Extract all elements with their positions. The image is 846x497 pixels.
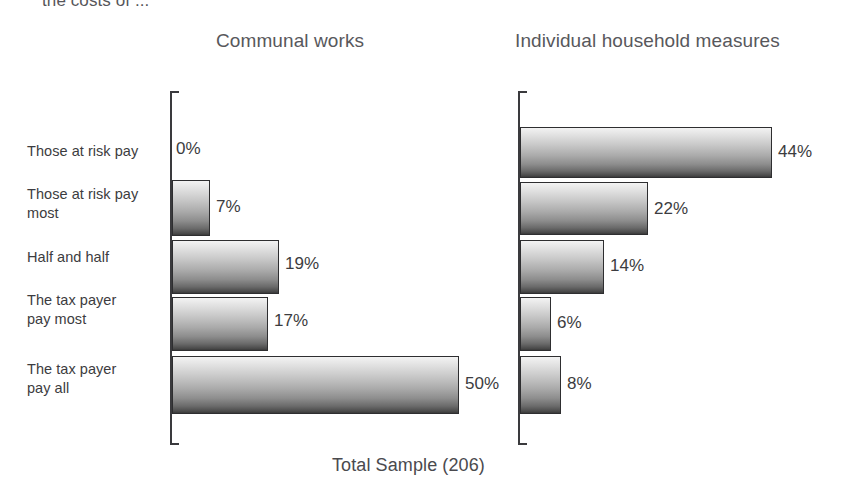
axis-cap-top-right xyxy=(518,91,527,93)
bar-value-right-1: 22% xyxy=(654,199,688,219)
bar-right-3 xyxy=(520,297,551,351)
bar-chart-figure: the costs of ... Communal works Individu… xyxy=(0,0,846,497)
panel-individual-household-measures: 44% 22% 14% 6% 8% xyxy=(0,0,846,497)
bar-value-right-3: 6% xyxy=(557,313,582,333)
bar-right-4 xyxy=(520,356,561,414)
bar-value-right-4: 8% xyxy=(567,374,592,394)
bar-value-right-0: 44% xyxy=(778,142,812,162)
bar-right-1 xyxy=(520,182,648,235)
axis-cap-bottom-right xyxy=(518,443,527,445)
footer-caption-total-sample: Total Sample (206) xyxy=(332,455,485,476)
bar-right-2 xyxy=(520,240,604,294)
bar-value-right-2: 14% xyxy=(610,256,644,276)
bar-right-0 xyxy=(520,127,772,178)
